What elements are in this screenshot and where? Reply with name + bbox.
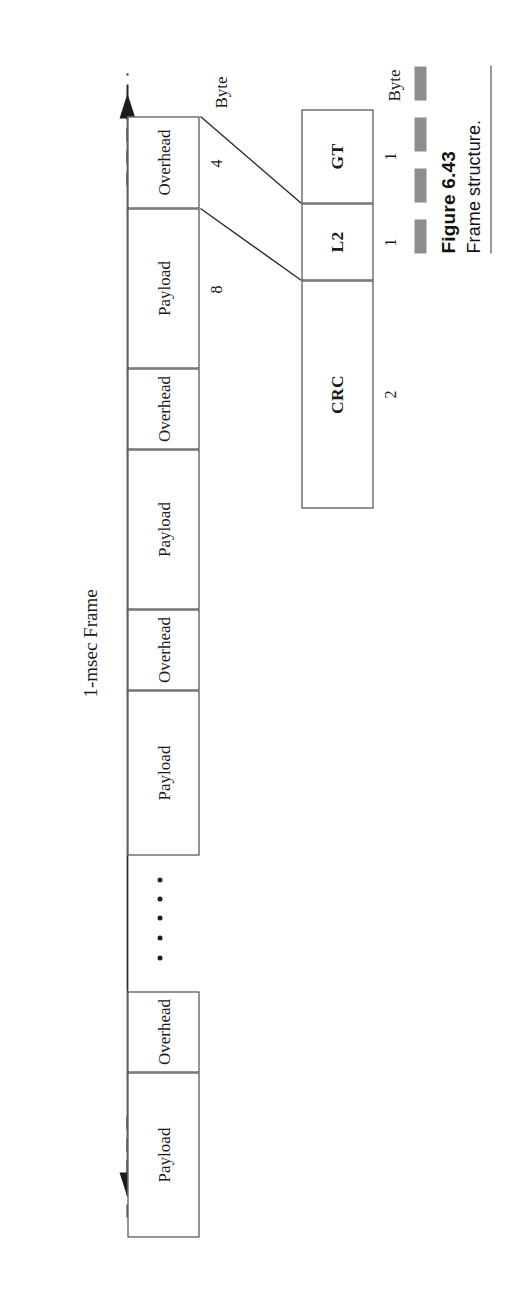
slot-2-overhead-box: Overhead bbox=[127, 368, 199, 449]
ellipsis-dot bbox=[157, 935, 162, 940]
caption-decor-bar bbox=[414, 168, 426, 202]
caption-rule bbox=[490, 65, 491, 253]
figure-number: Figure 6.43 bbox=[437, 150, 459, 253]
frame-byte-axis-label: Byte bbox=[212, 76, 229, 108]
slot-3-overhead-label: Overhead bbox=[155, 616, 172, 682]
rotated-figure-canvas: 1-msec Frame Slot 1 Overhead 4 Payload 8… bbox=[0, 0, 532, 1313]
slot-1-payload-label: Payload bbox=[155, 261, 172, 316]
slot-2-payload-label: Payload bbox=[155, 502, 172, 557]
slot-24-payload-box: Payload bbox=[127, 1072, 199, 1237]
caption-decor-bar bbox=[414, 219, 426, 253]
detail-crc-box: CRC bbox=[301, 280, 373, 508]
detail-crc-bytes: 2 bbox=[382, 390, 398, 398]
detail-crc-label: CRC bbox=[328, 375, 346, 414]
frame-span-label: 1-msec Frame bbox=[80, 589, 99, 697]
detail-gt-bytes: 1 bbox=[382, 152, 398, 160]
detail-l2-label: L2 bbox=[328, 231, 346, 252]
detail-gt-box: GT bbox=[301, 109, 373, 203]
slot-1-overhead-label: Overhead bbox=[155, 129, 172, 195]
caption-decor-bar bbox=[414, 117, 426, 151]
slot-1-overhead-bytes: 4 bbox=[208, 159, 224, 167]
slot-3-payload-label: Payload bbox=[155, 745, 172, 800]
ellipsis-dot bbox=[157, 955, 162, 960]
slot-2-overhead-label: Overhead bbox=[155, 375, 172, 441]
slot-24-payload-label: Payload bbox=[155, 1127, 172, 1182]
ellipsis-dot bbox=[157, 896, 162, 901]
ellipsis-dot bbox=[157, 915, 162, 920]
slot-3-overhead-box: Overhead bbox=[127, 609, 199, 690]
detail-gt-label: GT bbox=[328, 143, 346, 169]
figure-caption: Frame structure. bbox=[463, 119, 484, 253]
slot-24-overhead-label: Overhead bbox=[155, 998, 172, 1064]
slot-1-payload-box: Payload bbox=[127, 208, 199, 368]
slot-2-payload-box: Payload bbox=[127, 449, 199, 609]
slot-3-payload-box: Payload bbox=[127, 690, 199, 855]
caption-decor-bar bbox=[414, 66, 426, 100]
ellipsis-dot bbox=[157, 877, 162, 882]
slot-1-payload-bytes: 8 bbox=[208, 285, 224, 293]
detail-l2-bytes: 1 bbox=[382, 238, 398, 246]
figure-page: 1-msec Frame Slot 1 Overhead 4 Payload 8… bbox=[0, 0, 532, 1313]
slot-24-overhead-box: Overhead bbox=[127, 991, 199, 1072]
detail-byte-axis-label: Byte bbox=[385, 69, 402, 101]
slot-1-overhead-box: Overhead bbox=[127, 116, 199, 208]
detail-l2-box: L2 bbox=[301, 203, 373, 280]
